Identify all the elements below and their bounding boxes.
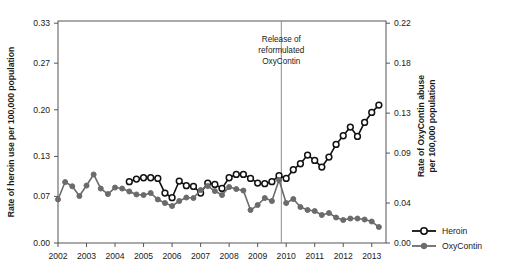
data-point-oxycontin <box>127 189 132 194</box>
data-point-oxycontin <box>348 216 353 221</box>
reformulation-annotation-line: OxyContin <box>262 57 301 66</box>
data-point-heroin <box>162 190 168 196</box>
data-point-heroin <box>248 175 254 181</box>
data-point-heroin <box>369 110 375 116</box>
data-point-heroin <box>305 152 311 158</box>
x-axis-tick-label: 2010 <box>277 251 296 261</box>
data-point-oxycontin <box>134 192 139 197</box>
data-point-oxycontin <box>255 203 260 208</box>
data-point-heroin <box>191 183 197 189</box>
data-point-oxycontin <box>291 197 296 202</box>
data-point-oxycontin <box>77 194 82 199</box>
y-axis-title: Rate of heroin use per 100,000 populatio… <box>6 47 16 217</box>
data-point-heroin <box>212 181 218 187</box>
data-point-oxycontin <box>84 183 89 188</box>
data-point-oxycontin <box>262 196 267 201</box>
data-point-oxycontin <box>70 184 75 189</box>
y-axis-tick-label: 0.33 <box>33 18 50 28</box>
data-point-heroin <box>298 161 304 167</box>
y2-axis-tick-label: 0.04 <box>394 198 411 208</box>
y2-axis-tick-label: 0.22 <box>394 18 411 28</box>
data-point-heroin <box>240 172 246 178</box>
chart-figure: 0.000.070.130.200.270.330.000.040.090.13… <box>0 0 505 276</box>
legend-marker-heroin <box>421 228 427 234</box>
data-point-heroin <box>319 164 325 170</box>
y-axis-tick-label: 0.20 <box>33 105 50 115</box>
data-point-oxycontin <box>269 199 274 204</box>
y2-axis-title-line2: per 100,000 population <box>427 79 437 172</box>
data-point-heroin <box>290 167 296 173</box>
data-point-heroin <box>148 175 154 181</box>
legend-label-oxycontin: OxyContin <box>442 241 482 251</box>
x-axis-tick-label: 2002 <box>48 251 67 261</box>
x-axis-tick-label: 2009 <box>248 251 267 261</box>
data-point-heroin <box>169 195 175 201</box>
data-point-oxycontin <box>141 193 146 198</box>
data-point-heroin <box>134 176 140 182</box>
data-point-oxycontin <box>148 191 153 196</box>
dual-axis-line-chart: 0.000.070.130.200.270.330.000.040.090.13… <box>0 0 505 276</box>
reformulation-annotation-line: reformulated <box>258 46 304 55</box>
y2-axis-tick-label: 0.09 <box>394 148 411 158</box>
data-point-oxycontin <box>177 199 182 204</box>
data-point-oxycontin <box>91 172 96 177</box>
data-point-oxycontin <box>184 195 189 200</box>
x-axis-tick-label: 2013 <box>362 251 381 261</box>
data-point-oxycontin <box>341 218 346 223</box>
legend-label-heroin: Heroin <box>442 226 468 236</box>
y-axis-tick-label: 0.13 <box>33 151 50 161</box>
x-axis-tick-label: 2012 <box>334 251 353 261</box>
data-point-heroin <box>176 178 182 184</box>
data-point-heroin <box>333 142 339 148</box>
x-axis-tick-label: 2003 <box>77 251 96 261</box>
data-point-oxycontin <box>205 184 210 189</box>
data-point-heroin <box>347 124 353 130</box>
y2-axis-tick-label: 0.00 <box>394 238 411 248</box>
data-point-heroin <box>376 102 382 108</box>
data-point-oxycontin <box>319 213 324 218</box>
data-point-oxycontin <box>312 209 317 214</box>
data-point-heroin <box>262 181 268 187</box>
data-point-oxycontin <box>98 186 103 191</box>
data-point-oxycontin <box>191 196 196 201</box>
y2-axis-tick-label: 0.18 <box>394 58 411 68</box>
data-point-oxycontin <box>298 205 303 210</box>
data-point-oxycontin <box>63 180 68 185</box>
data-point-heroin <box>340 133 346 139</box>
y-axis-tick-label: 0.00 <box>33 238 50 248</box>
series-line-oxycontin <box>58 174 379 227</box>
data-point-heroin <box>226 175 232 181</box>
data-point-heroin <box>183 183 189 189</box>
y2-axis-tick-label: 0.13 <box>394 108 411 118</box>
y2-axis-title-line1: Rate of OxyContin abuse <box>416 75 426 177</box>
data-point-heroin <box>283 175 289 181</box>
y-axis-tick-label: 0.07 <box>33 191 50 201</box>
data-point-oxycontin <box>113 185 118 190</box>
x-axis-tick-label: 2007 <box>191 251 210 261</box>
data-point-heroin <box>255 180 261 186</box>
data-point-heroin <box>312 158 318 164</box>
data-point-heroin <box>126 179 132 185</box>
data-point-heroin <box>233 172 239 178</box>
x-axis-tick-label: 2006 <box>163 251 182 261</box>
data-point-heroin <box>219 185 225 191</box>
data-point-oxycontin <box>305 208 310 213</box>
x-axis-tick-label: 2008 <box>220 251 239 261</box>
data-point-oxycontin <box>120 186 125 191</box>
data-point-oxycontin <box>248 208 253 213</box>
data-point-oxycontin <box>284 201 289 206</box>
data-point-heroin <box>362 120 368 126</box>
data-point-oxycontin <box>105 192 110 197</box>
x-axis-tick-label: 2004 <box>105 251 124 261</box>
x-axis-tick-label: 2011 <box>305 251 324 261</box>
data-point-oxycontin <box>212 189 217 194</box>
data-point-oxycontin <box>355 216 360 221</box>
data-point-oxycontin <box>326 211 331 216</box>
data-point-oxycontin <box>277 178 282 183</box>
data-point-heroin <box>355 134 361 140</box>
data-point-oxycontin <box>334 215 339 220</box>
data-point-oxycontin <box>170 204 175 209</box>
data-point-heroin <box>141 175 147 181</box>
reformulation-annotation-line: Release of <box>262 35 302 44</box>
data-point-oxycontin <box>234 187 239 192</box>
